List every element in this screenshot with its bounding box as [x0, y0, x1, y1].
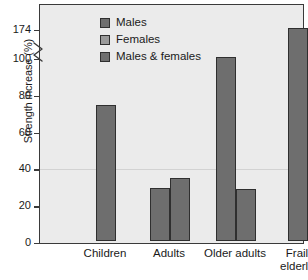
legend-swatch-icon — [100, 52, 110, 62]
y-tick-label: 60 — [19, 126, 31, 139]
bar — [150, 188, 170, 241]
y-tick-label: 20 — [19, 199, 31, 212]
y-tick-0: 0 — [0, 243, 40, 244]
chart-legend: MalesFemalesMales & females — [100, 15, 230, 66]
y-tick-label: 0 — [25, 236, 31, 249]
figure-panel-a: Strength increase (%) (a) 02040608010017… — [0, 0, 308, 280]
legend-item: Males & females — [100, 49, 230, 64]
y-tick-label: 80 — [19, 89, 31, 102]
x-tick-label-3: Frail elderly — [252, 247, 308, 273]
y-tick-60: 60 — [0, 133, 40, 134]
plot-area: 020406080100174 MalesFemalesMales & fema… — [39, 4, 304, 244]
y-tick-40: 40 — [0, 169, 40, 170]
legend-label: Females — [116, 33, 160, 46]
y-tick-mark — [34, 133, 40, 134]
y-tick-mark — [34, 30, 40, 31]
y-tick-mark — [34, 169, 40, 170]
bar — [288, 28, 308, 241]
y-tick-label: 40 — [19, 162, 31, 175]
y-tick-mark — [34, 96, 40, 97]
bar — [216, 57, 236, 241]
bar — [236, 189, 256, 241]
y-tick-mark — [34, 206, 40, 207]
y-tick-label: 100 — [13, 52, 31, 65]
y-tick-80: 80 — [0, 96, 40, 97]
y-tick-174: 174 — [0, 30, 40, 31]
y-tick-label: 174 — [13, 23, 31, 36]
y-tick-20: 20 — [0, 206, 40, 207]
y-axis-break-icon — [31, 42, 47, 64]
bar — [170, 178, 190, 241]
legend-swatch-icon — [100, 18, 110, 28]
y-tick-mark — [34, 243, 40, 244]
legend-item: Females — [100, 32, 230, 47]
legend-label: Males & females — [116, 50, 201, 63]
legend-swatch-icon — [100, 35, 110, 45]
bar — [96, 105, 116, 241]
legend-label: Males — [116, 16, 147, 29]
gridline-40 — [40, 169, 303, 170]
legend-item: Males — [100, 15, 230, 30]
